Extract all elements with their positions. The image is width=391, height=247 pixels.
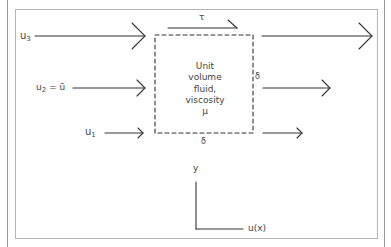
box-text-line-4: viscosity <box>164 95 246 106</box>
u2-label-suffix: = ū <box>46 82 65 92</box>
diagram-canvas <box>0 0 391 247</box>
u1-label: u1 <box>85 127 96 139</box>
y-axis-label: y <box>193 164 198 173</box>
box-text-line-3: fluid, <box>164 84 246 95</box>
box-text-line-1: Unit <box>164 61 246 72</box>
u3-label: u3 <box>20 31 31 43</box>
u2-outflow-arrow <box>263 80 330 96</box>
u2-inflow-arrow <box>73 80 145 96</box>
u1-label-sub: 1 <box>91 131 95 139</box>
u1-outflow-arrow <box>263 128 302 138</box>
delta-bottom-label: δ <box>201 138 206 146</box>
u3-outflow-arrow <box>262 23 372 49</box>
box-text-line-5: μ <box>164 106 246 117</box>
tau-label: τ <box>199 13 204 22</box>
unit-volume-description: Unit volume fluid, viscosity μ <box>164 61 246 117</box>
u2-label: u2 = ū <box>36 83 65 94</box>
u1-inflow-arrow <box>105 128 143 138</box>
coordinate-axes <box>196 182 243 229</box>
u3-inflow-arrow <box>35 23 145 49</box>
box-text-line-2: volume <box>164 72 246 83</box>
delta-right-label: δ <box>255 73 260 81</box>
x-axis-label: u(x) <box>248 224 266 233</box>
u3-label-sub: 3 <box>26 35 30 43</box>
